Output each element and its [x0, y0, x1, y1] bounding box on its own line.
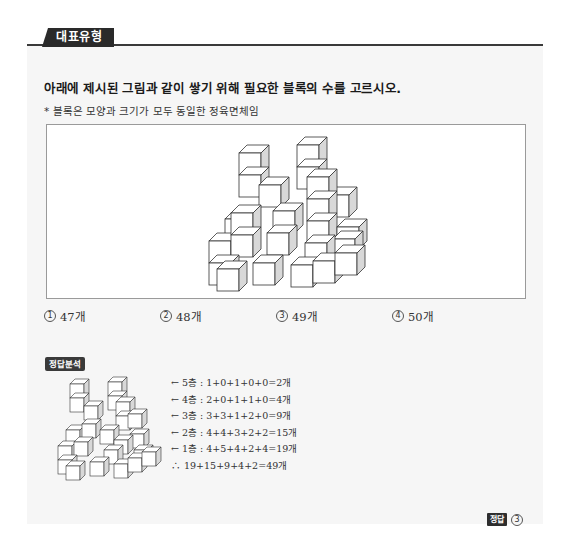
- choice-label: 48개: [176, 308, 202, 324]
- step-floor-1: ← 1층 : 4+5+4+2+4=19개: [171, 441, 297, 458]
- choice-3[interactable]: 3 49개: [276, 308, 392, 324]
- answer-value: 3: [511, 514, 523, 526]
- choice-label: 49개: [292, 308, 318, 324]
- choice-number: 1: [44, 310, 56, 322]
- choice-1[interactable]: 1 47개: [44, 308, 160, 324]
- choice-number: 4: [392, 310, 404, 322]
- step-floor-2: ← 2층 : 4+4+3+2+2=15개: [171, 425, 297, 442]
- solution-cubes-icon: [44, 375, 164, 485]
- step-floor-3: ← 3층 : 3+3+1+2+0=9개: [171, 408, 297, 425]
- choice-label: 50개: [408, 308, 434, 324]
- choice-number: 2: [160, 310, 172, 322]
- question-note: * 블록은 모양과 크기가 모두 동일한 정육면체임: [44, 103, 259, 118]
- answer-choices: 1 47개 2 48개 3 49개 4 50개: [44, 308, 524, 324]
- choice-2[interactable]: 2 48개: [160, 308, 276, 324]
- step-floor-4: ← 4층 : 2+0+1+1+0=4개: [171, 392, 297, 409]
- figure-box: [46, 124, 526, 299]
- choice-number: 3: [276, 310, 288, 322]
- step-total: ∴ 19+15+9+4+2=49개: [171, 458, 297, 475]
- analysis-badge: 정답분석: [45, 357, 85, 371]
- answer-badge: 정답: [487, 513, 507, 526]
- question-text: 아래에 제시된 그림과 같이 쌓기 위해 필요한 블록의 수를 고르시오.: [44, 78, 401, 97]
- type-tag: 대표유형: [42, 28, 114, 47]
- answer-row: 정답 3: [487, 513, 523, 526]
- solution-steps: ← 5층 : 1+0+1+0+0=2개 ← 4층 : 2+0+1+1+0=4개 …: [171, 375, 297, 475]
- step-floor-5: ← 5층 : 1+0+1+0+0=2개: [171, 375, 297, 392]
- choice-label: 47개: [60, 308, 86, 324]
- choice-4[interactable]: 4 50개: [392, 308, 508, 324]
- stacked-cubes-icon: [47, 125, 527, 300]
